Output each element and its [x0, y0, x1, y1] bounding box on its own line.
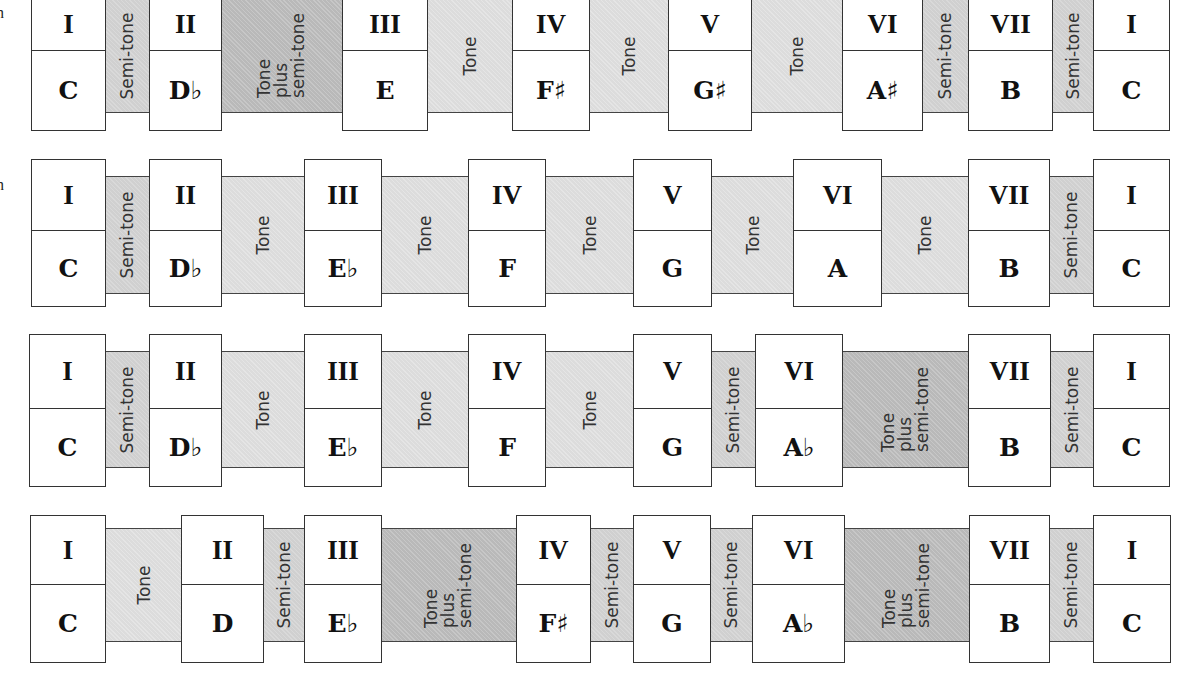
semitone-interval: Semi-tone [1050, 351, 1094, 468]
scale-degree-box: IID♭ [149, 334, 222, 487]
interval-label: Tone [621, 36, 637, 75]
tone-interval: Tone [545, 176, 634, 294]
degree-numeral: IV [469, 160, 545, 230]
interval-label: Semi-tone [726, 366, 742, 453]
scale-degree-box: IC [1093, 334, 1170, 487]
interval-label: Semi-tone [120, 192, 136, 279]
note-name: A♭ [753, 584, 844, 662]
note-name: G♯ [669, 50, 751, 130]
tone-interval: Tone [545, 351, 634, 468]
interval-label: Semi-tone [1064, 542, 1080, 629]
degree-numeral: V [634, 516, 710, 584]
scale-degree-box: VIA♯ [842, 0, 923, 131]
tone-interval: Tone [105, 528, 182, 642]
note-name: G [634, 584, 710, 662]
tone-interval: Tone [881, 176, 969, 294]
degree-numeral: I [1094, 160, 1169, 230]
interval-label: Tone [581, 215, 597, 254]
interval-label: Tone plus semi-tone [880, 367, 931, 452]
tone-interval: Tone [221, 176, 305, 294]
degree-numeral: VII [969, 160, 1049, 230]
degree-numeral: II [150, 160, 221, 230]
interval-label: Semi-tone [938, 12, 954, 99]
interval-label: Semi-tone [1064, 366, 1080, 453]
interval-label: Tone plus semi-tone [423, 542, 474, 627]
scale-degree-box: VG [633, 334, 712, 487]
degree-numeral: II [182, 516, 263, 584]
scale-degree-box: IVF♯ [512, 0, 590, 131]
note-name: C [32, 50, 105, 130]
scale-degree-box: IID [181, 515, 264, 663]
semitone-interval: Semi-tone [711, 351, 756, 468]
note-name: A♯ [843, 50, 922, 130]
scale-degree-box: IID♭ [149, 0, 222, 131]
toneplus-interval: Tone plus semi-tone [221, 0, 343, 113]
degree-numeral: I [1094, 0, 1169, 50]
note-name: E [343, 50, 427, 130]
degree-numeral: VI [756, 335, 842, 408]
scale-degree-box: VG [633, 515, 711, 663]
degree-numeral: VI [753, 516, 844, 584]
semitone-interval: Semi-tone [590, 528, 634, 642]
scale-degree-box: IVF [468, 334, 546, 487]
note-name: B [970, 584, 1049, 662]
note-name: C [32, 230, 105, 306]
scale-degree-box: VIIB [968, 159, 1050, 307]
interval-label: Tone [462, 36, 478, 75]
scale-degree-box: IC [1093, 515, 1171, 663]
tone-interval: Tone [427, 0, 513, 113]
interval-label: Tone [417, 390, 433, 429]
interval-label: Tone plus semi-tone [256, 13, 307, 98]
degree-numeral: IV [517, 516, 590, 584]
toneplus-interval: Tone plus semi-tone [381, 528, 517, 642]
degree-numeral: VI [794, 160, 881, 230]
scale-degree-box: IID♭ [149, 159, 222, 307]
semitone-interval: Semi-tone [1052, 0, 1094, 113]
note-name: G [634, 230, 711, 306]
scale-degree-box: IC [29, 334, 106, 487]
cropped-edge-text: n [0, 176, 4, 194]
toneplus-interval: Tone plus semi-tone [842, 351, 969, 468]
note-name: D♭ [150, 408, 221, 486]
note-name: C [1094, 408, 1169, 486]
degree-numeral: I [32, 160, 105, 230]
semitone-interval: Semi-tone [1049, 528, 1094, 642]
semitone-interval: Semi-tone [1049, 176, 1094, 294]
scale-degree-box: IVF♯ [516, 515, 591, 663]
tone-interval: Tone [711, 176, 794, 294]
note-name: F♯ [517, 584, 590, 662]
interval-label: Tone [135, 565, 151, 604]
tone-interval: Tone [381, 351, 469, 468]
note-name: A [794, 230, 881, 306]
interval-label: Semi-tone [1064, 192, 1080, 279]
interval-label: Tone [255, 215, 271, 254]
note-name: G [634, 408, 711, 486]
tone-interval: Tone [221, 351, 305, 468]
scale-degree-box: IIIE [342, 0, 428, 131]
scale-degree-box: IIIE♭ [304, 159, 382, 307]
note-name: F♯ [513, 50, 589, 130]
interval-label: Tone [417, 215, 433, 254]
degree-numeral: VI [843, 0, 922, 50]
degree-numeral: IV [513, 0, 589, 50]
degree-numeral: V [634, 335, 711, 408]
note-name: E♭ [305, 584, 381, 662]
degree-numeral: II [150, 335, 221, 408]
tone-interval: Tone [589, 0, 669, 113]
scale-degree-box: IC [1093, 0, 1170, 131]
note-name: C [1094, 230, 1169, 306]
note-name: D♭ [150, 50, 221, 130]
degree-numeral: I [30, 335, 105, 408]
degree-numeral: VII [970, 516, 1049, 584]
scale-degree-box: VIA♭ [752, 515, 845, 663]
degree-numeral: V [669, 0, 751, 50]
scale-degree-box: IC [31, 159, 106, 307]
semitone-interval: Semi-tone [105, 0, 150, 113]
semitone-interval: Semi-tone [263, 528, 305, 642]
note-name: D♭ [150, 230, 221, 306]
note-name: E♭ [305, 408, 381, 486]
interval-label: Semi-tone [724, 542, 740, 629]
interval-label: Tone [255, 390, 271, 429]
interval-label: Semi-tone [1065, 12, 1081, 99]
semitone-interval: Semi-tone [105, 176, 150, 294]
